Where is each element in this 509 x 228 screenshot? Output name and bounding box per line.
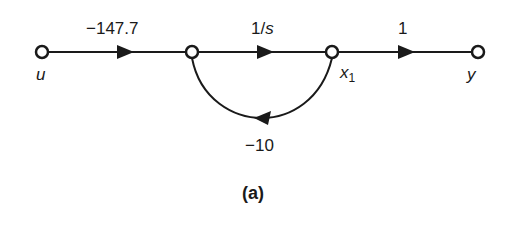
gain-label-u-n2: −147.7 — [86, 20, 138, 37]
gain-label-n2-x1: 1/s — [251, 20, 274, 37]
node-u — [36, 46, 48, 58]
arrow-left-icon — [254, 111, 271, 125]
gain-label-x1-y: 1 — [398, 20, 407, 37]
arrow-right-icon — [257, 45, 274, 59]
feedback-branch-x1-to-n2 — [192, 58, 332, 118]
node-label-y: y — [467, 66, 476, 83]
node-label-u: u — [36, 66, 45, 83]
node-n2 — [186, 46, 198, 58]
node-x1 — [326, 46, 338, 58]
gain-label-feedback: −10 — [245, 137, 274, 154]
node-label-x1: x1 — [340, 64, 355, 81]
node-y — [472, 46, 484, 58]
figure-caption: (a) — [242, 184, 264, 202]
arrow-right-icon — [117, 45, 134, 59]
arrow-right-icon — [398, 45, 415, 59]
gain-var: s — [265, 19, 274, 38]
gain-prefix: 1/ — [251, 19, 265, 38]
